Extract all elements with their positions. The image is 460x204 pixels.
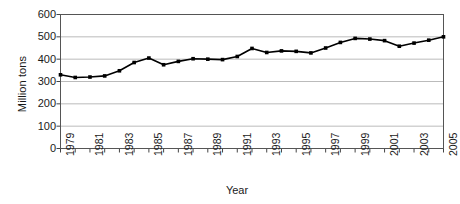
x-axis-tick-label: 1983 xyxy=(124,132,135,155)
x-axis-tick-label: 1997 xyxy=(330,132,341,155)
x-axis-tick-label: 1989 xyxy=(212,132,223,155)
x-axis-tick-label: 1995 xyxy=(301,132,312,155)
x-axis-tick-label: 1981 xyxy=(94,132,105,155)
x-axis-tick-label: 1991 xyxy=(242,132,253,155)
x-axis-title-text: Year xyxy=(226,184,248,196)
x-axis-tick-label: 2003 xyxy=(419,132,430,155)
x-axis-tick-label: 1979 xyxy=(65,132,76,155)
x-axis-tick-label: 1999 xyxy=(360,132,371,155)
x-axis-tick-label: 1993 xyxy=(271,132,282,155)
x-axis-tick-labels: 1979198119831985198719891991199319951997… xyxy=(0,0,460,204)
chart-figure: Million tons 0100200300400500600 1979198… xyxy=(0,0,460,204)
x-axis-tick-label: 1987 xyxy=(183,132,194,155)
x-axis-title: Year xyxy=(0,184,460,196)
x-axis-tick-label: 2005 xyxy=(448,132,459,155)
x-axis-tick-label: 2001 xyxy=(389,132,400,155)
x-axis-tick-label: 1985 xyxy=(153,132,164,155)
